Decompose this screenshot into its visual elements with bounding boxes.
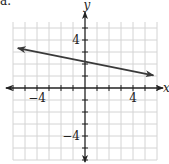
coordinate-plane: −444−4xy xyxy=(0,0,169,164)
y-tick-label: −4 xyxy=(62,129,80,143)
y-axis-label: y xyxy=(83,0,91,12)
x-axis-label: x xyxy=(163,81,169,95)
x-tick-label: 4 xyxy=(129,91,137,105)
y-tick-label: 4 xyxy=(72,33,80,47)
x-tick-label: −4 xyxy=(28,91,46,105)
